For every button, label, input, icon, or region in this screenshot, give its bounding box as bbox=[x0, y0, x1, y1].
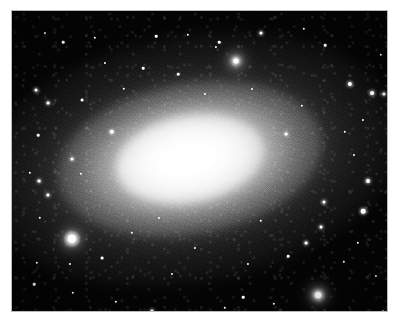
star bbox=[81, 99, 84, 102]
star bbox=[37, 134, 40, 137]
star bbox=[285, 133, 288, 136]
star bbox=[218, 41, 221, 44]
astronomical-photograph bbox=[12, 11, 387, 311]
star bbox=[287, 255, 290, 258]
star bbox=[35, 89, 38, 92]
star bbox=[366, 179, 370, 183]
star bbox=[320, 226, 323, 229]
star bbox=[323, 201, 326, 204]
star bbox=[260, 32, 263, 35]
star bbox=[315, 292, 321, 298]
star bbox=[305, 242, 308, 245]
star bbox=[47, 102, 50, 105]
image-canvas bbox=[0, 0, 397, 324]
star bbox=[71, 158, 74, 161]
star bbox=[155, 35, 158, 38]
star bbox=[150, 309, 153, 311]
star bbox=[38, 180, 41, 183]
star bbox=[177, 73, 180, 76]
star bbox=[242, 296, 245, 299]
photographic-grain-layer-2 bbox=[12, 11, 387, 311]
star bbox=[62, 41, 65, 44]
star bbox=[382, 310, 384, 311]
star bbox=[324, 44, 327, 47]
star bbox=[142, 67, 145, 70]
star bbox=[370, 91, 374, 95]
star bbox=[361, 209, 366, 214]
star bbox=[33, 283, 36, 286]
star bbox=[101, 257, 104, 260]
